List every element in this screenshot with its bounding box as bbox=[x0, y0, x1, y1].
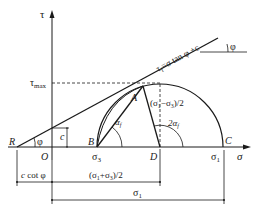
phi-arc-right bbox=[227, 44, 228, 52]
radius-DA bbox=[143, 86, 160, 147]
alpha-f-arc bbox=[112, 127, 122, 147]
point-B: B bbox=[88, 136, 94, 147]
radius-label: (σ1−σ3)/2 bbox=[150, 98, 184, 109]
sigma1-dimension-label: σ1 bbox=[133, 187, 142, 200]
sigma1-axis-label: σ1 bbox=[211, 151, 220, 164]
point-A: A bbox=[130, 92, 138, 103]
phi-label-left: φ bbox=[37, 136, 43, 147]
tau-axis-arrow-icon bbox=[50, 10, 55, 18]
point-C: C bbox=[225, 135, 232, 146]
center-label: (σ1+σ3)/2 bbox=[89, 170, 123, 181]
sigma-axis-label: σ bbox=[237, 150, 243, 162]
phi-arc-left bbox=[34, 138, 35, 147]
phi-label-right: φ bbox=[230, 41, 236, 52]
envelope-equation: τf=σ tan φ +c bbox=[154, 42, 201, 74]
cohesion-label: c bbox=[60, 131, 65, 142]
mohr-coulomb-diagram: τ σ τmax τf=σ tan φ +c φ φ c αf 2αf (σ1−… bbox=[0, 0, 256, 215]
point-R: R bbox=[8, 136, 15, 147]
c-cot-phi-label: c cot φ bbox=[21, 170, 46, 180]
sigma-axis-arrow-icon bbox=[243, 145, 251, 150]
two-alpha-f-label: 2αf bbox=[168, 118, 180, 129]
tau-max-label: τmax bbox=[30, 77, 47, 90]
sigma3-label: σ3 bbox=[92, 151, 101, 164]
point-O: O bbox=[41, 151, 48, 162]
point-D: D bbox=[149, 151, 158, 162]
alpha-f-label: αf bbox=[115, 117, 123, 128]
tau-axis-label: τ bbox=[40, 8, 45, 20]
